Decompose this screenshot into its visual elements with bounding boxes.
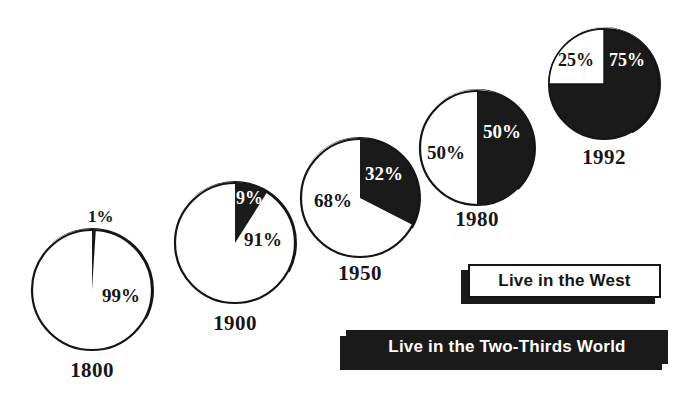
pie-1950-dark-value: 32% xyxy=(365,164,403,183)
pie-1992-dark-value: 75% xyxy=(609,51,645,69)
legend-two-thirds[interactable]: Live in the Two-Thirds World xyxy=(346,330,668,364)
pie-1980-dark-slice xyxy=(477,91,534,205)
pie-1950-year: 1950 xyxy=(297,261,423,286)
pie-chart-1800: 1% 99% 1800 xyxy=(28,226,156,354)
pie-1800-year: 1800 xyxy=(28,358,156,383)
pie-1900-dark-value: 9% xyxy=(236,189,263,207)
pie-1800-light-value: 99% xyxy=(102,286,140,305)
pie-chart-1992: 25% 75% 1992 xyxy=(545,25,663,143)
pie-1950-light-value: 68% xyxy=(314,191,352,210)
pie-1992-graphic xyxy=(545,25,663,143)
pie-1992-year: 1992 xyxy=(545,145,663,170)
pie-1900-light-value: 91% xyxy=(244,230,282,249)
pie-chart-1950: 32% 68% 1950 xyxy=(297,135,423,261)
pie-1800-dark-value: 1% xyxy=(88,208,114,225)
pie-chart-1900: 9% 91% 1900 xyxy=(171,179,299,307)
pie-1992-light-value: 25% xyxy=(558,51,594,69)
pie-1900-year: 1900 xyxy=(171,311,299,336)
legend-west[interactable]: Live in the West xyxy=(468,264,661,298)
pie-1980-year: 1980 xyxy=(416,207,538,232)
pie-1980-dark-value: 50% xyxy=(483,122,521,141)
legend-west-label: Live in the West xyxy=(498,271,630,291)
legend-two-thirds-label: Live in the Two-Thirds World xyxy=(388,337,625,357)
pie-chart-1980: 50% 50% 1980 xyxy=(416,87,538,209)
pie-chart-figure: 1% 99% 1800 9% 91% 1900 32% 68% 1950 xyxy=(0,0,698,400)
pie-1980-light-value: 50% xyxy=(427,143,465,162)
